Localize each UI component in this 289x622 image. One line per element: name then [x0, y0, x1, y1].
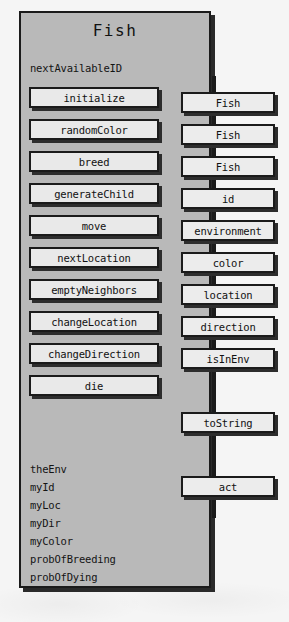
signature-box[interactable]: Fish — [181, 124, 275, 145]
instance-variable: myDir — [30, 515, 116, 531]
instance-variable: myLoc — [30, 497, 116, 513]
instance-variable: myColor — [30, 533, 116, 549]
method-box[interactable]: randomColor — [29, 119, 159, 140]
method-box[interactable]: nextLocation — [29, 247, 159, 268]
instance-variable: probOfBreeding — [30, 551, 116, 567]
method-box[interactable]: die — [29, 375, 159, 396]
signature-box[interactable]: isInEnv — [181, 348, 275, 369]
instance-variable: myId — [30, 479, 116, 495]
static-field-label: nextAvailableID — [30, 62, 122, 74]
instance-variable: theEnv — [30, 461, 116, 477]
method-box[interactable]: emptyNeighbors — [29, 279, 159, 300]
signature-box[interactable]: direction — [181, 316, 275, 337]
signature-box[interactable]: location — [181, 284, 275, 305]
signature-box[interactable]: Fish — [181, 156, 275, 177]
method-box[interactable]: changeLocation — [29, 311, 159, 332]
method-box[interactable]: breed — [29, 151, 159, 172]
signature-box[interactable]: Fish — [181, 92, 275, 113]
signature-box[interactable]: color — [181, 252, 275, 273]
class-name-title: Fish — [21, 21, 209, 40]
method-box[interactable]: move — [29, 215, 159, 236]
method-box[interactable]: changeDirection — [29, 343, 159, 364]
method-box[interactable]: generateChild — [29, 183, 159, 204]
signature-box[interactable]: id — [181, 188, 275, 209]
instance-variable: probOfDying — [30, 569, 116, 585]
instance-variable-list: theEnv myId myLoc myDir myColor probOfBr… — [30, 461, 116, 585]
method-box[interactable]: initialize — [29, 87, 159, 108]
signature-box[interactable]: toString — [181, 412, 275, 433]
signature-box[interactable]: environment — [181, 220, 275, 241]
signature-box[interactable]: act — [181, 476, 275, 497]
